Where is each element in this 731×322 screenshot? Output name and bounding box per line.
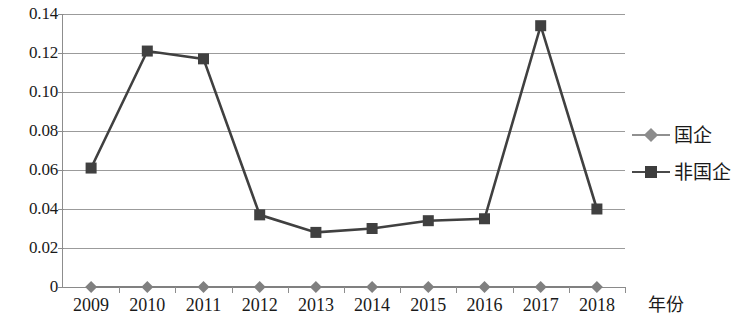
y-axis-tick-mark — [58, 170, 64, 171]
x-axis-tick-mark — [513, 287, 514, 293]
y-axis-tick-mark — [58, 53, 64, 54]
data-point-diamond — [366, 281, 378, 293]
x-axis-tick-mark — [288, 287, 289, 293]
y-axis-tick-mark — [58, 209, 64, 210]
y-axis-tick-mark — [58, 131, 64, 132]
series-line — [91, 26, 597, 233]
legend-item-state-owned[interactable]: 国企 — [632, 118, 730, 155]
data-point-square — [367, 223, 378, 234]
data-point-diamond — [141, 281, 153, 293]
data-point-diamond — [310, 281, 322, 293]
data-point-square — [142, 46, 153, 57]
y-axis-tick-mark — [58, 248, 64, 249]
x-axis-tick-mark — [569, 287, 570, 293]
x-axis-tick-mark — [119, 287, 120, 293]
data-point-diamond — [85, 281, 97, 293]
data-point-square — [254, 209, 265, 220]
series-non-state-owned — [86, 20, 603, 238]
data-point-square — [535, 20, 546, 31]
data-point-square — [479, 213, 490, 224]
legend-item-non-state-owned[interactable]: 非国企 — [632, 155, 730, 192]
x-axis-tick-mark — [456, 287, 457, 293]
x-axis-tick-mark — [232, 287, 233, 293]
data-point-diamond — [535, 281, 547, 293]
legend-swatch-diamond — [632, 127, 670, 143]
x-axis-tick-mark — [344, 287, 345, 293]
data-point-square — [198, 53, 209, 64]
x-axis-tick-mark — [175, 287, 176, 293]
data-point-square — [591, 204, 602, 215]
data-point-diamond — [254, 281, 266, 293]
x-axis-tick-mark — [625, 287, 626, 293]
data-point-diamond — [198, 281, 210, 293]
y-axis-tick-mark — [58, 287, 64, 288]
data-point-diamond — [591, 281, 603, 293]
x-axis-tick-label: 2018 — [562, 294, 632, 316]
data-point-square — [86, 163, 97, 174]
legend-label-state-owned: 国企 — [674, 120, 712, 150]
data-point-diamond — [479, 281, 491, 293]
x-axis-tick-mark — [400, 287, 401, 293]
data-point-square — [310, 227, 321, 238]
x-axis-tick-labels: 2009201020112012201320142015201620172018 — [0, 294, 730, 322]
x-axis-title: 年份 — [648, 294, 684, 316]
chart-legend: 国企 非国企 — [632, 118, 730, 192]
y-axis-tick-mark — [58, 14, 64, 15]
data-point-square — [423, 215, 434, 226]
legend-swatch-square — [632, 164, 670, 180]
y-axis-tick-mark — [58, 92, 64, 93]
legend-label-non-state-owned: 非国企 — [674, 157, 731, 187]
data-point-diamond — [422, 281, 434, 293]
